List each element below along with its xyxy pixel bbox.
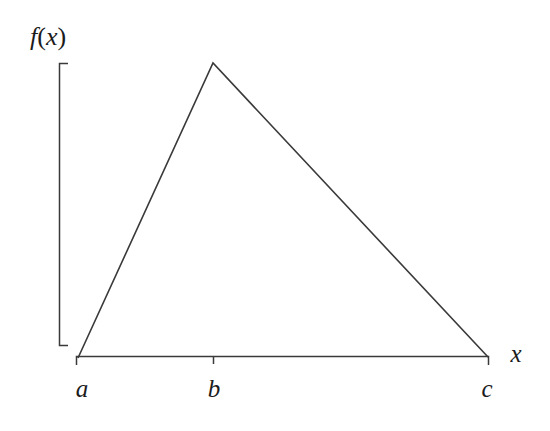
x-tick-label-c: c xyxy=(481,375,492,402)
x-tick-label-b: b xyxy=(208,375,221,402)
x-tick-label-a: a xyxy=(76,375,89,402)
plot-background xyxy=(0,0,550,431)
y-axis-label-open-paren: ( xyxy=(37,22,46,51)
triangular-distribution-plot: f(x) x a b c xyxy=(0,0,550,431)
y-axis-label: f(x) xyxy=(30,22,66,51)
y-axis-label-variable: x xyxy=(45,22,58,51)
x-axis-label: x xyxy=(509,340,521,367)
chart-figure: f(x) x a b c xyxy=(0,0,550,431)
y-axis-label-close-paren: ) xyxy=(57,22,66,51)
